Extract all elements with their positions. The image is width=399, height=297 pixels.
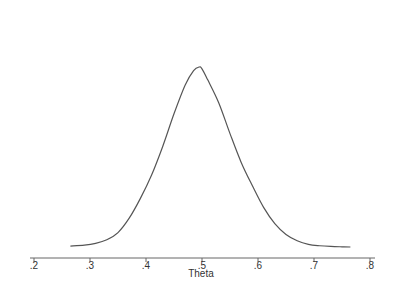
density-plot: .2.3.4.5.6.7.8 Theta bbox=[0, 0, 399, 297]
density-line bbox=[70, 67, 350, 247]
x-axis-title: Theta bbox=[188, 268, 214, 279]
x-tick-label: .6 bbox=[254, 260, 263, 271]
density-curve bbox=[70, 67, 350, 247]
x-tick-label: .7 bbox=[310, 260, 319, 271]
x-tick-label: .2 bbox=[30, 260, 39, 271]
x-tick-label: .3 bbox=[86, 260, 95, 271]
x-tick-label: .8 bbox=[366, 260, 375, 271]
x-tick-label: .4 bbox=[142, 260, 151, 271]
